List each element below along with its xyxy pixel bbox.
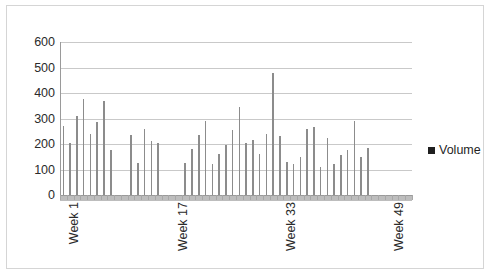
x-axis-tick: [250, 195, 251, 200]
y-axis-labels: 0100200300400500600: [9, 42, 55, 195]
x-axis-tick: [80, 195, 81, 200]
bar: [130, 135, 132, 195]
bar: [151, 141, 153, 195]
bar: [137, 163, 139, 195]
x-axis-tick: [317, 195, 318, 200]
bar: [354, 121, 356, 195]
bar: [157, 143, 159, 195]
bar: [184, 163, 186, 195]
x-axis-tick: [229, 195, 230, 200]
bar: [272, 73, 274, 195]
bar: [232, 130, 234, 195]
x-axis-tick: [304, 195, 305, 200]
bar: [306, 129, 308, 195]
x-axis-tick: [222, 195, 223, 200]
bar: [347, 150, 349, 195]
plot-area: [60, 42, 412, 195]
bar: [320, 167, 322, 195]
x-axis-tick: [310, 195, 311, 200]
x-axis-tick: [344, 195, 345, 200]
x-axis-tick: [182, 195, 183, 200]
bar: [279, 136, 281, 195]
x-axis-tick: [87, 195, 88, 200]
x-axis-tick: [148, 195, 149, 200]
bar: [83, 99, 85, 195]
x-axis-tick: [270, 195, 271, 200]
y-axis-label-400: 400: [13, 87, 55, 100]
bar: [259, 154, 261, 195]
x-axis-tick: [195, 195, 196, 200]
x-axis-tick: [338, 195, 339, 200]
x-axis-tick: [236, 195, 237, 200]
legend-label-volume: Volume: [439, 144, 481, 157]
bar: [300, 157, 302, 195]
bar: [110, 150, 112, 195]
x-axis-tick: [277, 195, 278, 200]
bar: [212, 164, 214, 195]
y-axis-label-500: 500: [13, 62, 55, 75]
x-axis-tick: [263, 195, 264, 200]
x-axis-tick: [74, 195, 75, 200]
y-axis-label-600: 600: [13, 36, 55, 49]
x-axis-tick: [101, 195, 102, 200]
bar: [90, 134, 92, 195]
bar: [239, 107, 241, 195]
x-axis-label-week-1: Week 1: [68, 202, 81, 244]
x-axis-tick: [290, 195, 291, 200]
legend-swatch-volume: [428, 147, 435, 154]
bar: [360, 157, 362, 195]
y-axis-label-200: 200: [13, 138, 55, 151]
x-axis-label-week-17: Week 17: [177, 202, 190, 251]
x-axis-tick: [155, 195, 156, 200]
bar: [69, 143, 71, 195]
x-axis-tick: [243, 195, 244, 200]
x-axis-tick: [67, 195, 68, 200]
bar: [333, 164, 335, 195]
bar: [144, 129, 146, 195]
x-axis-tick: [216, 195, 217, 200]
x-axis-tick: [392, 195, 393, 200]
x-axis-tick: [114, 195, 115, 200]
x-axis-tick: [405, 195, 406, 200]
x-axis-tick: [202, 195, 203, 200]
x-axis-tick: [175, 195, 176, 200]
x-axis-tick: [358, 195, 359, 200]
bar: [205, 121, 207, 195]
bar: [252, 140, 254, 195]
x-axis-tick: [324, 195, 325, 200]
bar: [313, 127, 315, 195]
bar: [76, 116, 78, 195]
chart-frame: 0100200300400500600 Week 1Week 17Week 33…: [6, 5, 484, 269]
y-axis-label-0: 0: [13, 189, 55, 202]
bar: [103, 101, 105, 195]
bar: [367, 148, 369, 195]
x-axis-tick: [121, 195, 122, 200]
x-axis-tick: [331, 195, 332, 200]
bar: [63, 126, 65, 195]
x-axis-tick: [209, 195, 210, 200]
bar: [191, 149, 193, 195]
x-axis-tick: [378, 195, 379, 200]
x-axis-tick: [385, 195, 386, 200]
x-axis-tick: [162, 195, 163, 200]
bar: [198, 135, 200, 195]
x-axis-tick: [412, 195, 413, 200]
bar: [266, 134, 268, 195]
bar: [340, 155, 342, 195]
x-axis-tick: [94, 195, 95, 200]
x-axis-label-week-49: Week 49: [393, 202, 406, 251]
x-axis-tick: [283, 195, 284, 200]
y-axis-label-300: 300: [13, 113, 55, 126]
bar: [293, 164, 295, 195]
bar: [96, 122, 98, 195]
x-axis-tick: [371, 195, 372, 200]
bar-series-volume: [60, 42, 412, 195]
x-axis-tick: [141, 195, 142, 200]
x-axis-tick: [107, 195, 108, 200]
x-axis-label-week-33: Week 33: [285, 202, 298, 251]
x-axis-tick: [60, 195, 61, 200]
x-axis-tick: [256, 195, 257, 200]
bar: [286, 162, 288, 195]
chart-legend: Volume: [428, 144, 481, 157]
bar: [245, 143, 247, 195]
